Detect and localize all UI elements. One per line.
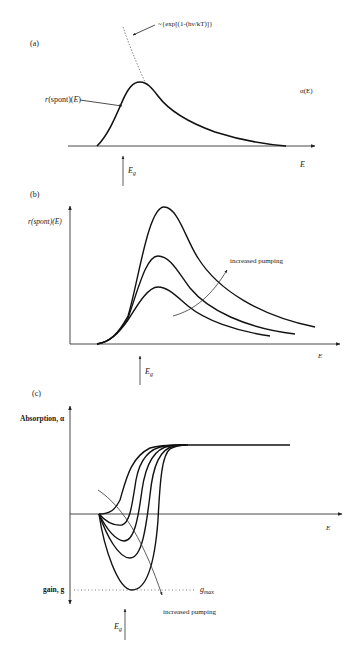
panel-c-pumping-arrow [98,490,162,595]
panel-a-curve-label-rest: (spont)( [48,95,73,104]
panel-c-curve-5 [99,445,188,590]
panel-b-label: (b) [30,191,39,199]
panel-c-pumping-label: increased pumping [163,609,216,616]
panel-c-x-label: E [326,525,330,532]
panel-a-curve-label-pointer [80,100,122,106]
panel-a-alpha-label: α(E) [300,88,313,95]
panel-a-curve-label-close: ) [78,95,81,104]
panel-b-x-label: E [318,353,322,360]
panel-a-eg-sub: g [133,170,136,176]
panel-c-label: (c) [32,390,41,398]
panel-c-gmax-label: gmax [200,586,214,595]
panel-c-eg-label: Eg [114,623,122,632]
panel-b [70,206,340,385]
panel-b-eg-sub: g [150,371,153,377]
panel-a-x-label: E [300,161,305,169]
panel-c [70,406,342,640]
panel-a-dashed-label-pointer [133,25,155,35]
panel-a-curve-label: r(spont)(E) [45,96,81,104]
panel-b-pumping-arrow [173,270,227,316]
panel-b-y-label: r(spont)(E) [28,218,62,226]
panel-c-y-label: Absorption, α [20,415,64,423]
panel-b-pumping-label: increased pumping [230,258,283,265]
panel-b-curve-high [97,207,315,344]
panel-c-gain-label: gain, g [43,586,64,594]
panel-a-dashed-label: ~{exp[(1-(hν/kT)]} [158,21,213,28]
panel-c-curve-2 [99,445,182,525]
panel-a-eg-label: Eg [128,167,136,176]
panel-b-curve-mid [97,256,295,344]
panel-c-gmax-sub: max [204,589,214,595]
panel-a-spont-curve [97,82,286,146]
panel-a [68,25,315,186]
panel-a-label: (a) [30,40,39,48]
panel-b-eg-label: Eg [145,368,153,377]
panel-c-curve-3 [99,445,184,541]
panel-a-exp-dashed-line [123,27,145,82]
panel-c-eg-sub: g [119,626,122,632]
panel-b-curve-low [97,287,270,344]
